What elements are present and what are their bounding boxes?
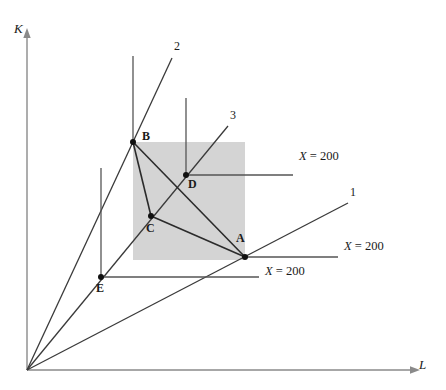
isoquant-diagram: K L 1 2 3 A B C D E X = 200 X = 200 X = … bbox=[0, 0, 446, 390]
point-E-label: E bbox=[96, 282, 104, 294]
isoquant-middle-eq: = 200 bbox=[352, 239, 384, 253]
diagram-canvas bbox=[0, 0, 446, 390]
ray-2-label: 2 bbox=[174, 40, 180, 52]
l-axis bbox=[27, 366, 420, 373]
k-axis-label: K bbox=[14, 22, 23, 35]
isoquant-bottom-var: X bbox=[265, 264, 273, 278]
isoquant-middle-var: X bbox=[344, 239, 352, 253]
isoquant-label-bottom: X = 200 bbox=[265, 265, 305, 278]
point-D-label: D bbox=[188, 178, 197, 190]
isoquant-top-var: X bbox=[299, 149, 307, 163]
point-C-dot bbox=[148, 213, 154, 219]
l-axis-label: L bbox=[419, 358, 426, 371]
ray-3-label: 3 bbox=[230, 109, 236, 121]
point-C-label: C bbox=[146, 222, 155, 234]
isoquant-label-middle: X = 200 bbox=[344, 240, 384, 253]
point-E-dot bbox=[98, 274, 104, 280]
point-A-dot bbox=[242, 254, 248, 260]
k-axis bbox=[23, 28, 30, 370]
isoquant-label-top: X = 200 bbox=[299, 150, 339, 163]
point-B-dot bbox=[130, 139, 136, 145]
ray-1-label: 1 bbox=[350, 186, 356, 198]
point-B-label: B bbox=[142, 130, 150, 142]
point-A-label: A bbox=[236, 232, 245, 244]
isoquant-top-eq: = 200 bbox=[307, 149, 339, 163]
isoquant-bottom-eq: = 200 bbox=[273, 264, 305, 278]
